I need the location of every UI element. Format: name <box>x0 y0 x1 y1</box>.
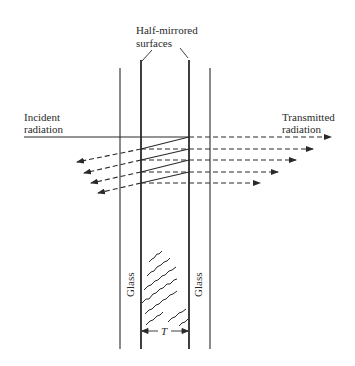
transmitted-label-line1: Transmitted <box>282 111 335 123</box>
gap-hatching <box>142 251 188 326</box>
leader-line-right <box>180 48 188 58</box>
reflected-ray-3 <box>91 172 141 183</box>
incident-label-line1: Incident <box>24 111 60 123</box>
half-mirrored-label-line1: Half-mirrored <box>136 24 198 36</box>
reflected-ray-2 <box>84 160 141 173</box>
reflected-ray-1 <box>77 149 141 162</box>
transmitted-label-line2: radiation <box>282 123 322 135</box>
thickness-label: T <box>161 325 168 337</box>
glass-label-left: Glass <box>124 273 136 297</box>
half-mirrored-label-line2: surfaces <box>136 37 172 49</box>
incident-label-line2: radiation <box>24 123 64 135</box>
reflected-rays <box>77 149 141 193</box>
leader-line-left <box>142 50 152 61</box>
fabry-perot-diagram: Half-mirrored surfaces Incident radiatio… <box>0 0 355 366</box>
glass-label-right: Glass <box>192 273 204 297</box>
